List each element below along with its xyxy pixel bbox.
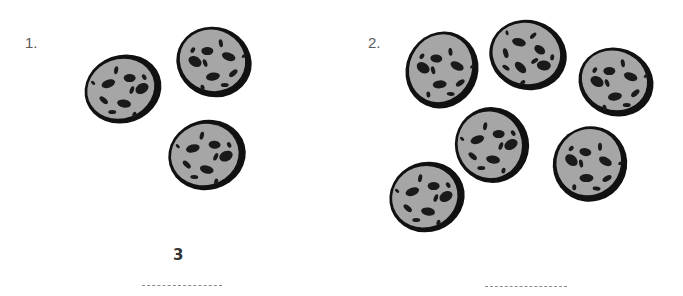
cookie-icon [160,111,253,199]
problem-1-answer[interactable]: 3 [173,248,183,263]
cookie-icon [481,11,574,99]
cookie-icon [379,151,474,243]
chocolate-chip [428,182,440,190]
chocolate-chip [477,166,485,170]
chocolate-chip [124,74,136,82]
cookie-illustrations [0,0,683,296]
chocolate-chip [579,174,593,182]
cookie-icon [569,37,664,127]
cookie-icon [393,19,491,120]
cookie-icon [75,44,172,135]
chocolate-chip [623,103,631,107]
chocolate-chip [412,218,420,222]
chocolate-chip [598,143,602,151]
chocolate-chip [221,83,229,87]
cookie-icon [539,113,641,216]
chocolate-chip [603,67,615,75]
chocolate-chip [493,130,505,138]
chocolate-chip [108,110,116,114]
chocolate-chip [201,47,213,55]
problem-1-answer-line[interactable] [142,285,222,286]
chocolate-chip [572,184,576,190]
problem-2-answer-line[interactable] [485,286,567,287]
cookie-icon [166,16,261,108]
